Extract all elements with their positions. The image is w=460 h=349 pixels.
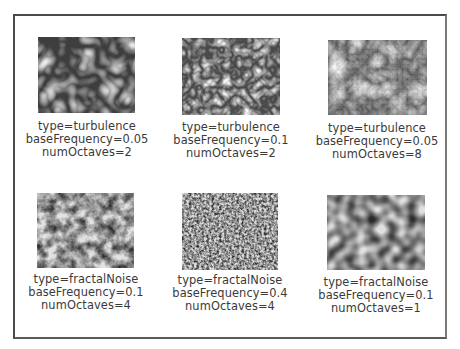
sample-caption: type=fractalNoise baseFrequency=0.4 numO… bbox=[155, 274, 305, 313]
sample-caption: type=fractalNoise baseFrequency=0.1 numO… bbox=[301, 276, 451, 315]
num-octaves-label: numOctaves=8 bbox=[302, 148, 452, 161]
noise-swatch-turbulence-0.05-2 bbox=[38, 37, 135, 113]
turbulence-texture-image bbox=[182, 38, 280, 115]
num-octaves-label: numOctaves=4 bbox=[11, 299, 161, 312]
num-octaves-label: numOctaves=2 bbox=[156, 147, 306, 160]
sample-caption: type=turbulence baseFrequency=0.1 numOct… bbox=[156, 121, 306, 160]
sample-caption: type=fractalNoise baseFrequency=0.1 numO… bbox=[11, 273, 161, 312]
turbulence-texture-image bbox=[328, 40, 427, 115]
noise-swatch-fractalnoise-0.1-1 bbox=[327, 195, 425, 270]
fractal-noise-texture-image bbox=[182, 193, 278, 270]
sample-caption: type=turbulence baseFrequency=0.05 numOc… bbox=[12, 120, 162, 159]
noise-swatch-fractalnoise-0.1-4 bbox=[37, 193, 134, 268]
noise-swatch-fractalnoise-0.4-4 bbox=[182, 193, 278, 270]
num-octaves-label: numOctaves=4 bbox=[155, 300, 305, 313]
fractal-noise-texture-image bbox=[37, 193, 134, 268]
turbulence-texture-image bbox=[38, 37, 135, 113]
noise-swatch-turbulence-0.1-2 bbox=[182, 38, 280, 115]
num-octaves-label: numOctaves=1 bbox=[301, 302, 451, 315]
sample-caption: type=turbulence baseFrequency=0.05 numOc… bbox=[302, 122, 452, 161]
noise-swatch-turbulence-0.05-8 bbox=[328, 40, 427, 115]
fractal-noise-texture-image bbox=[327, 195, 425, 270]
num-octaves-label: numOctaves=2 bbox=[12, 146, 162, 159]
